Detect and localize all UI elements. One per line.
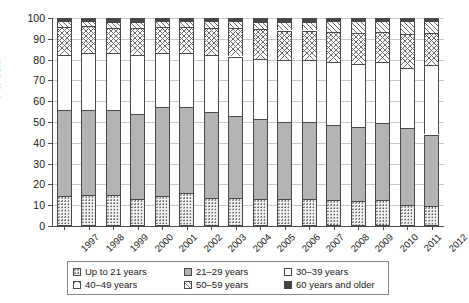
bar-segment[interactable] (253, 119, 268, 199)
bar-segment[interactable] (302, 22, 317, 30)
bar-segment[interactable] (204, 112, 219, 198)
bar-segment[interactable] (228, 18, 243, 21)
bar-segment[interactable] (326, 32, 341, 62)
bar-segment[interactable] (155, 27, 170, 53)
bar-segment[interactable] (81, 26, 96, 53)
bar-group-2003[interactable] (204, 18, 219, 226)
bar-segment[interactable] (326, 21, 341, 31)
legend-item[interactable]: 30–39 years (284, 266, 348, 277)
bar-segment[interactable] (424, 206, 439, 226)
bar-segment[interactable] (57, 196, 72, 226)
bar-group-2002[interactable] (179, 18, 194, 226)
bar-segment[interactable] (57, 55, 72, 109)
bar-segment[interactable] (179, 193, 194, 226)
bar-segment[interactable] (326, 125, 341, 200)
bar-segment[interactable] (424, 135, 439, 207)
bar-segment[interactable] (253, 59, 268, 119)
bar-group-2008[interactable] (326, 18, 341, 226)
bar-group-2009[interactable] (351, 18, 366, 226)
bar-segment[interactable] (351, 64, 366, 127)
bar-segment[interactable] (130, 114, 145, 199)
bar-segment[interactable] (277, 18, 292, 22)
bar-segment[interactable] (277, 22, 292, 30)
bar-segment[interactable] (277, 31, 292, 60)
bar-segment[interactable] (400, 68, 415, 128)
bar-segment[interactable] (155, 18, 170, 21)
bar-group-2001[interactable] (155, 18, 170, 226)
bar-segment[interactable] (302, 18, 317, 22)
bar-segment[interactable] (253, 18, 268, 22)
bar-segment[interactable] (375, 18, 390, 21)
bar-segment[interactable] (57, 21, 72, 27)
bar-group-2000[interactable] (130, 18, 145, 226)
bar-segment[interactable] (228, 116, 243, 198)
bar-segment[interactable] (155, 21, 170, 27)
bar-group-1997[interactable] (57, 18, 72, 226)
bar-segment[interactable] (228, 57, 243, 116)
bar-segment[interactable] (106, 110, 121, 195)
bar-group-2004[interactable] (228, 18, 243, 226)
bar-segment[interactable] (424, 33, 439, 65)
bar-segment[interactable] (179, 107, 194, 192)
bar-segment[interactable] (81, 18, 96, 21)
bar-segment[interactable] (326, 200, 341, 226)
bar-segment[interactable] (106, 22, 121, 28)
bar-segment[interactable] (130, 199, 145, 226)
bar-segment[interactable] (351, 127, 366, 201)
bar-group-2011[interactable] (400, 18, 415, 226)
bar-segment[interactable] (81, 110, 96, 195)
bar-segment[interactable] (424, 18, 439, 21)
bar-segment[interactable] (424, 65, 439, 135)
bar-segment[interactable] (375, 62, 390, 123)
legend-item[interactable]: Up to 21 years (73, 266, 147, 277)
bar-segment[interactable] (277, 199, 292, 226)
bar-segment[interactable] (375, 123, 390, 200)
bar-segment[interactable] (106, 195, 121, 226)
bar-segment[interactable] (57, 110, 72, 196)
bar-segment[interactable] (253, 22, 268, 29)
bar-segment[interactable] (253, 199, 268, 226)
bar-segment[interactable] (400, 205, 415, 226)
bar-segment[interactable] (204, 21, 219, 28)
bar-segment[interactable] (424, 21, 439, 32)
bar-segment[interactable] (277, 60, 292, 122)
bar-segment[interactable] (179, 27, 194, 53)
bar-group-2005[interactable] (253, 18, 268, 226)
bar-segment[interactable] (130, 18, 145, 22)
bar-segment[interactable] (204, 198, 219, 226)
bar-segment[interactable] (351, 33, 366, 64)
bar-segment[interactable] (106, 28, 121, 53)
bar-segment[interactable] (375, 21, 390, 31)
bar-group-2006[interactable] (277, 18, 292, 226)
bar-group-2010[interactable] (375, 18, 390, 226)
bar-segment[interactable] (155, 196, 170, 226)
legend-item[interactable]: 21–29 years (184, 266, 248, 277)
bar-group-2007[interactable] (302, 18, 317, 226)
bar-segment[interactable] (204, 18, 219, 21)
bar-segment[interactable] (228, 198, 243, 226)
bar-segment[interactable] (204, 28, 219, 55)
bar-segment[interactable] (106, 18, 121, 22)
bar-segment[interactable] (302, 199, 317, 226)
bar-segment[interactable] (375, 200, 390, 226)
legend-item[interactable]: 40–49 years (73, 279, 137, 290)
bar-segment[interactable] (130, 22, 145, 28)
bar-segment[interactable] (400, 21, 415, 33)
bar-segment[interactable] (130, 55, 145, 113)
bar-segment[interactable] (253, 29, 268, 58)
legend-item[interactable]: 60 years and older (284, 279, 375, 290)
bar-segment[interactable] (400, 34, 415, 68)
bar-group-1999[interactable] (106, 18, 121, 226)
bar-segment[interactable] (204, 55, 219, 111)
bar-segment[interactable] (228, 21, 243, 28)
bar-segment[interactable] (81, 53, 96, 109)
bar-segment[interactable] (81, 195, 96, 226)
bar-segment[interactable] (179, 18, 194, 21)
bar-segment[interactable] (155, 53, 170, 107)
bar-segment[interactable] (179, 53, 194, 107)
bar-segment[interactable] (375, 32, 390, 62)
bar-segment[interactable] (130, 28, 145, 55)
bar-segment[interactable] (326, 62, 341, 125)
bar-segment[interactable] (228, 28, 243, 56)
bar-segment[interactable] (106, 53, 121, 109)
